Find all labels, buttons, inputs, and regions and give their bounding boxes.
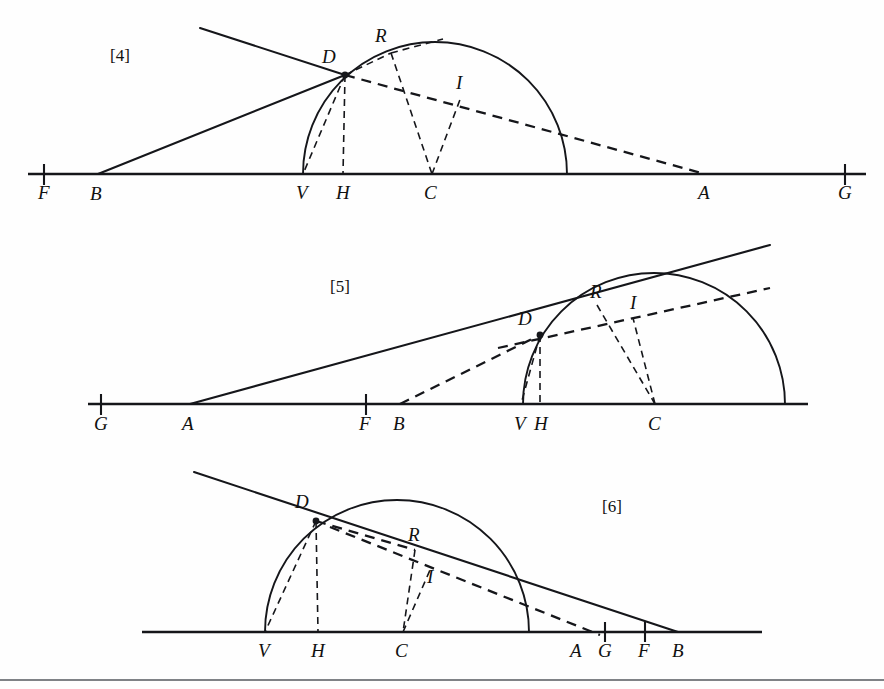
figure-6-label-G: G xyxy=(598,640,612,661)
figure-6-label-F: F xyxy=(637,640,650,661)
figure-6-label-R: R xyxy=(407,524,420,545)
geometry-plate-canvas: [4] F B V H C A G D R I xyxy=(0,0,884,689)
figure-4-label-R: R xyxy=(374,25,387,46)
figure-4-label-H: H xyxy=(335,182,351,203)
figure-5-caption: [5] xyxy=(330,277,350,296)
figure-5-semicircle xyxy=(523,273,785,404)
figure-4-semicircle xyxy=(303,42,567,174)
figure-6-label-D: D xyxy=(294,491,309,512)
figure-plate: [4] F B V H C A G D R I xyxy=(0,0,884,689)
figure-6-group: [6] V H C A G F B D R I xyxy=(142,472,762,661)
figure-4-label-C: C xyxy=(424,182,437,203)
figure-6-point-D-marker xyxy=(313,518,320,525)
figure-5-label-A: A xyxy=(180,413,194,434)
figure-5-label-R: R xyxy=(589,281,602,302)
figure-6-label-C: C xyxy=(395,640,408,661)
figure-5-group: [5] G A F B V H C D R I xyxy=(88,245,808,434)
figure-6-segment-DR xyxy=(316,521,415,550)
figure-5-secant-ray xyxy=(190,245,770,404)
figure-5-segment-BD xyxy=(400,335,540,404)
figure-6-label-B: B xyxy=(672,640,684,661)
figure-4-caption: [4] xyxy=(110,46,130,65)
figure-6-label-A: A xyxy=(568,640,582,661)
figure-4-label-G: G xyxy=(838,182,852,203)
figure-5-segment-RC xyxy=(597,305,655,404)
figure-6-semicircle xyxy=(265,500,529,632)
figure-6-segment-DH xyxy=(316,521,318,632)
figure-5-label-G: G xyxy=(94,413,108,434)
figure-5-label-F: F xyxy=(358,413,371,434)
figure-4-point-D-marker xyxy=(342,72,349,79)
figure-4-label-B: B xyxy=(90,183,102,204)
figure-5-label-V: V xyxy=(514,413,528,434)
figure-5-label-B: B xyxy=(393,413,405,434)
figure-4-segment-CI xyxy=(432,97,461,174)
figure-5-label-H: H xyxy=(533,413,549,434)
figure-5-label-C: C xyxy=(648,413,661,434)
figure-4-segment-DA xyxy=(345,75,705,174)
figure-5-label-D: D xyxy=(517,308,532,329)
figure-4-segment-DH xyxy=(343,75,345,174)
figure-4-segment-RC xyxy=(391,53,432,174)
figure-4-segment-BD xyxy=(98,75,345,174)
figure-6-segment-DA xyxy=(330,527,600,635)
figure-6-caption: [6] xyxy=(602,497,622,516)
figure-6-segment-DV xyxy=(265,521,316,632)
figure-4-label-A: A xyxy=(696,182,710,203)
figure-6-label-H: H xyxy=(310,640,326,661)
figure-4-label-D: D xyxy=(321,46,336,67)
figure-5-point-D-marker xyxy=(537,332,544,339)
figure-4-group: [4] F B V H C A G D R I xyxy=(28,25,866,204)
figure-4-label-I: I xyxy=(455,72,464,93)
figure-4-label-F: F xyxy=(37,182,50,203)
figure-4-label-V: V xyxy=(296,182,310,203)
figure-5-label-I: I xyxy=(629,292,638,313)
figure-5-segment-CI xyxy=(633,318,655,404)
figure-6-label-V: V xyxy=(258,640,272,661)
